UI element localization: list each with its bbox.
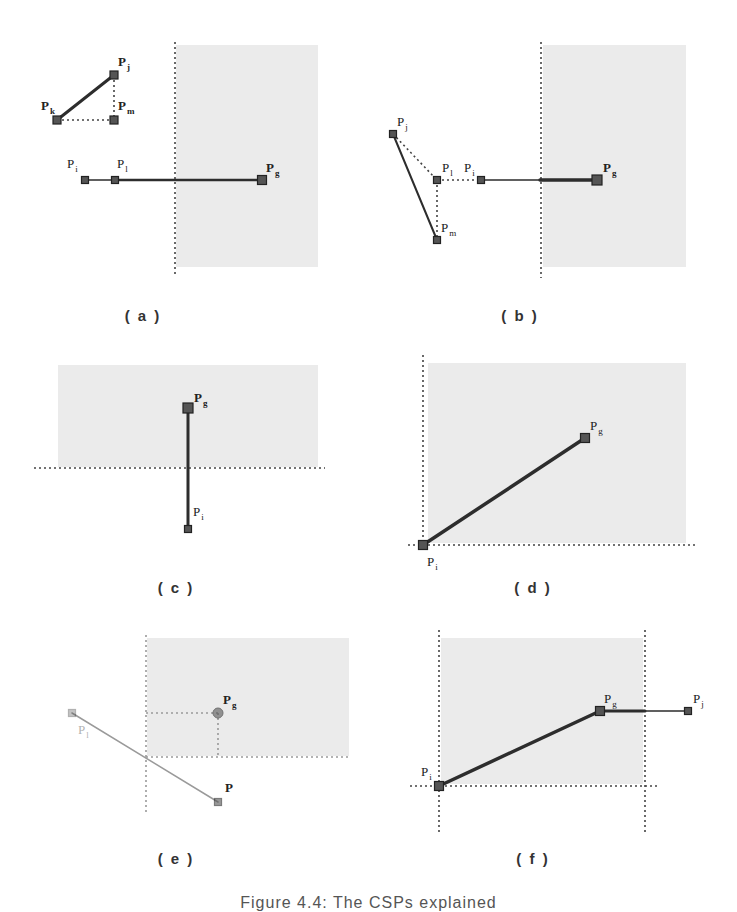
subfigure-label-b: ( b ) <box>501 307 539 324</box>
point-marker-Pg <box>581 434 590 443</box>
point-label-Pj: Pj <box>118 54 130 72</box>
point-marker-Pg <box>592 175 602 185</box>
point-marker-Pj <box>110 71 118 79</box>
point-marker-Pi <box>478 177 485 184</box>
panel-a: PkPjPmPiPlPg <box>41 42 318 275</box>
point-label-Pi: Pi <box>421 764 432 782</box>
panel-d: PgPi <box>408 355 695 572</box>
panel-f: PiPgPj <box>410 630 704 833</box>
point-marker-Pi <box>185 526 192 533</box>
point-label-Pl: Pl <box>117 156 128 174</box>
point-marker-Pg <box>258 176 267 185</box>
point-label-Pi: Pi <box>464 160 475 178</box>
point-label-Pi: Pi <box>193 504 204 522</box>
subfigure-label-f: ( f ) <box>516 850 549 867</box>
point-label-Pm: Pm <box>118 98 135 116</box>
point-label-P: P <box>225 780 233 795</box>
subfigure-label-a: ( a ) <box>125 307 162 324</box>
point-marker-Pl <box>434 177 441 184</box>
dotted-guide-line <box>393 134 437 180</box>
panel-c: PgPi <box>34 365 325 533</box>
figure-caption: Figure 4.4: The CSPs explained <box>0 894 737 912</box>
point-marker-Pl <box>69 710 76 717</box>
point-label-Pl: Pl <box>442 160 453 178</box>
panel-e: PlPgP <box>69 635 351 815</box>
subfigure-label-e: ( e ) <box>158 850 195 867</box>
point-marker-Pm <box>434 237 441 244</box>
point-marker-P <box>215 799 222 806</box>
point-marker-Pk <box>53 116 61 124</box>
constraint-region <box>543 45 686 267</box>
point-label-Pi: Pi <box>67 156 78 174</box>
segment-line <box>57 75 114 120</box>
point-marker-Pi <box>82 177 89 184</box>
point-label-Pi: Pi <box>427 554 438 572</box>
point-marker-Pg <box>213 708 223 718</box>
point-label-Pj: Pj <box>397 114 408 132</box>
point-label-Pj: Pj <box>693 691 704 709</box>
subfigure-label-c: ( c ) <box>158 579 195 596</box>
panel-b: PjPlPiPmPg <box>390 42 687 278</box>
point-label-Pl: Pl <box>78 722 89 740</box>
point-label-Pk: Pk <box>41 98 55 116</box>
point-marker-Pi <box>419 541 428 550</box>
point-marker-Pg <box>183 403 193 413</box>
constraint-region <box>147 638 349 756</box>
point-marker-Pm <box>110 116 118 124</box>
constraint-region <box>176 45 318 267</box>
point-marker-Pi <box>435 782 444 791</box>
segment-line <box>393 134 437 240</box>
point-marker-Pl <box>112 177 119 184</box>
subfigure-label-d: ( d ) <box>514 579 552 596</box>
point-marker-Pj <box>390 131 397 138</box>
point-marker-Pj <box>685 708 692 715</box>
point-marker-Pg <box>596 707 605 716</box>
point-label-Pm: Pm <box>441 220 456 238</box>
